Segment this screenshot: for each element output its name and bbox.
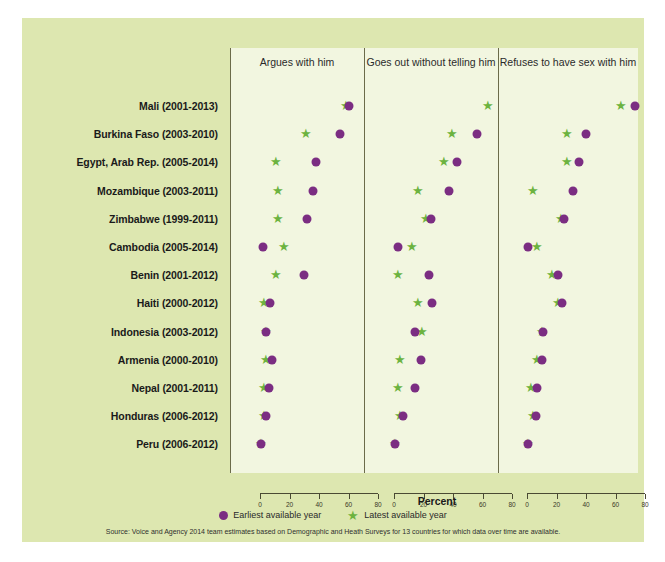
data-point-latest: ★ [272, 186, 284, 195]
plot-area-2: 020406080★★★★★★★★★★★★★ [364, 93, 498, 473]
data-point-earliest [553, 271, 562, 280]
country-label: Indonesia (2003-2012) [111, 326, 218, 338]
panel-goes-out-without-telling-him: Goes out without telling him 020406080★★… [364, 48, 498, 473]
data-point-latest: ★ [394, 355, 406, 364]
data-point-earliest [453, 158, 462, 167]
data-point-latest: ★ [615, 102, 627, 111]
data-point-earliest [410, 327, 419, 336]
data-point-earliest [267, 355, 276, 364]
data-point-earliest [391, 440, 400, 449]
data-point-latest: ★ [527, 186, 539, 195]
data-point-earliest [444, 186, 453, 195]
data-point-earliest [303, 214, 312, 223]
data-point-earliest [539, 327, 548, 336]
x-axis-label: Percent [230, 495, 644, 507]
country-label: Mali (2001-2013) [139, 100, 218, 112]
data-point-earliest [425, 271, 434, 280]
country-label: Nepal (2001-2011) [132, 382, 218, 394]
data-point-earliest [261, 327, 270, 336]
data-point-latest: ★ [561, 130, 573, 139]
legend-label: Latest available year [364, 510, 447, 520]
country-label: Cambodia (2005-2014) [109, 241, 218, 253]
legend-circle-icon [219, 511, 228, 520]
country-label: Mozambique (2003-2011) [97, 185, 218, 197]
data-point-latest: ★ [531, 243, 543, 252]
data-point-latest: ★ [446, 130, 458, 139]
data-point-earliest [394, 243, 403, 252]
data-point-latest: ★ [438, 158, 450, 167]
legend-star-icon: ★ [347, 511, 359, 520]
data-point-latest: ★ [392, 384, 404, 393]
data-point-latest: ★ [406, 243, 418, 252]
data-point-earliest [261, 412, 270, 421]
data-point-latest: ★ [272, 214, 284, 223]
data-point-earliest [558, 299, 567, 308]
data-point-earliest [426, 214, 435, 223]
data-point-earliest [335, 130, 344, 139]
country-label: Honduras (2006-2012) [111, 410, 218, 422]
country-label: Burkina Faso (2003-2010) [94, 128, 218, 140]
panel-title: Argues with him [230, 56, 364, 69]
data-point-earliest [428, 299, 437, 308]
data-point-earliest [582, 130, 591, 139]
data-point-latest: ★ [482, 102, 494, 111]
data-point-latest: ★ [392, 271, 404, 280]
legend-item: ★Latest available year [347, 510, 447, 520]
data-point-earliest [309, 186, 318, 195]
data-point-earliest [410, 384, 419, 393]
country-label-column: Mali (2001-2013)Burkina Faso (2003-2010)… [22, 18, 230, 542]
source-note: Source: Voice and Agency 2014 team estim… [22, 528, 644, 535]
data-point-earliest [568, 186, 577, 195]
data-point-latest: ★ [412, 186, 424, 195]
data-point-earliest [257, 440, 266, 449]
country-label: Zimbabwe (1999-2011) [109, 213, 218, 225]
chart-legend: Earliest available year★Latest available… [22, 510, 644, 520]
data-point-latest: ★ [561, 158, 573, 167]
data-point-earliest [264, 384, 273, 393]
data-point-earliest [312, 158, 321, 167]
panel-title: Goes out without telling him [364, 56, 498, 69]
data-point-earliest [266, 299, 275, 308]
legend-label: Earliest available year [233, 510, 321, 520]
data-point-latest: ★ [412, 299, 424, 308]
plot-area-1: 020406080★★★★★★★★★★★★★ [230, 93, 364, 473]
data-point-earliest [574, 158, 583, 167]
data-point-earliest [398, 412, 407, 421]
country-label: Peru (2006-2012) [136, 438, 218, 450]
data-point-earliest [524, 440, 533, 449]
data-point-earliest [559, 214, 568, 223]
data-point-latest: ★ [270, 158, 282, 167]
panel-title: Refuses to have sex with him [498, 56, 638, 69]
data-point-earliest [537, 355, 546, 364]
country-label: Haiti (2000-2012) [137, 297, 218, 309]
data-point-latest: ★ [270, 271, 282, 280]
legend-item: Earliest available year [219, 510, 321, 520]
data-point-earliest [344, 102, 353, 111]
country-label: Benin (2001-2012) [130, 269, 218, 281]
panel-argues-with-him: Argues with him 020406080★★★★★★★★★★★★★ [230, 48, 364, 473]
panel-refuses-to-have-sex-with-him: Refuses to have sex with him 020406080★★… [498, 48, 638, 473]
data-point-latest: ★ [278, 243, 290, 252]
data-point-earliest [416, 355, 425, 364]
data-point-earliest [533, 384, 542, 393]
plot-area-3: 020406080★★★★★★★★★★★★★ [498, 93, 638, 473]
country-label: Armenia (2000-2010) [118, 354, 218, 366]
data-point-earliest [472, 130, 481, 139]
data-point-earliest [258, 243, 267, 252]
x-axis-tick [645, 494, 646, 499]
country-label: Egypt, Arab Rep. (2005-2014) [76, 156, 218, 168]
data-point-earliest [531, 412, 540, 421]
data-point-earliest [300, 271, 309, 280]
data-point-earliest [524, 243, 533, 252]
data-point-latest: ★ [300, 130, 312, 139]
data-point-earliest [630, 102, 639, 111]
chart-figure: Mali (2001-2013)Burkina Faso (2003-2010)… [22, 18, 644, 542]
